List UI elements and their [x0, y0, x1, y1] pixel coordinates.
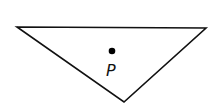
point-p-dot: [109, 48, 116, 55]
triangle-diagram: P: [0, 0, 210, 108]
diagram-canvas: P: [0, 0, 210, 108]
point-p-label: P: [106, 61, 116, 80]
